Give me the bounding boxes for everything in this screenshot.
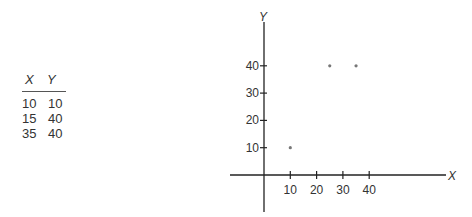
x-axis-label: X — [447, 169, 457, 183]
y-axis-label: Y — [259, 10, 268, 24]
data-point — [328, 64, 331, 67]
y-tick-label: 10 — [246, 141, 260, 155]
x-tick-label: 40 — [363, 183, 377, 197]
y-tick-label: 40 — [246, 59, 260, 73]
data-point — [354, 64, 357, 67]
x-tick-label: 20 — [310, 183, 324, 197]
scatter-plot: 1020304010203040 X Y — [0, 0, 472, 217]
x-tick-label: 10 — [284, 183, 298, 197]
x-tick-label: 30 — [336, 183, 350, 197]
y-tick-label: 30 — [246, 86, 260, 100]
data-point — [289, 146, 292, 149]
y-tick-label: 20 — [246, 113, 260, 127]
